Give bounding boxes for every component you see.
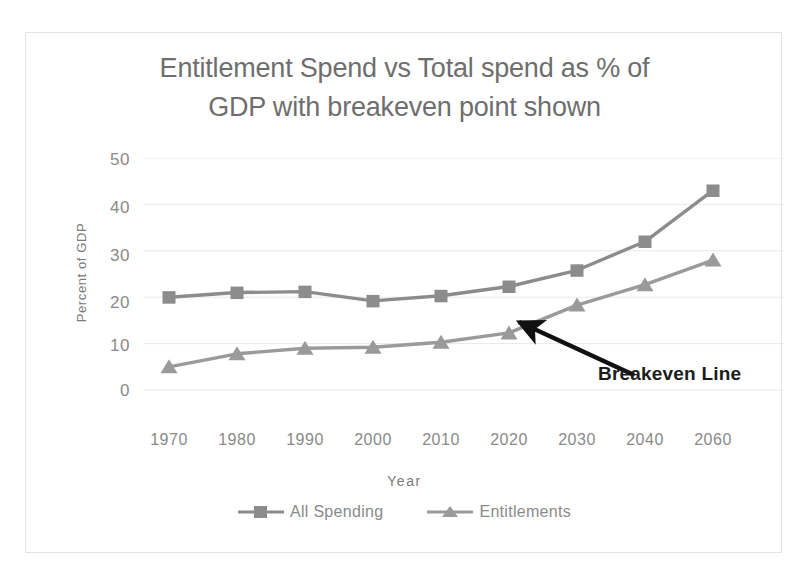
x-axis-title: Year xyxy=(26,473,783,489)
chart-title: Entitlement Spend vs Total spend as % of… xyxy=(26,49,783,127)
x-tick-1980: 1980 xyxy=(207,431,267,449)
data-point[interactable] xyxy=(299,286,312,299)
legend-square-marker-icon xyxy=(238,504,284,520)
legend-label-all-spending: All Spending xyxy=(290,503,383,521)
x-tick-2020: 2020 xyxy=(479,431,539,449)
series-line xyxy=(169,260,713,367)
legend-item-entitlements[interactable]: Entitlements xyxy=(427,503,571,521)
data-point[interactable] xyxy=(707,184,720,197)
data-point[interactable] xyxy=(231,287,244,300)
x-tick-2040: 2040 xyxy=(615,431,675,449)
legend-triangle-marker-icon xyxy=(427,504,473,520)
x-tick-2060: 2060 xyxy=(683,431,743,449)
y-tick-20: 20 xyxy=(86,293,130,313)
data-point[interactable] xyxy=(163,291,176,304)
breakeven-line-annotation: Breakeven Line xyxy=(598,363,741,385)
x-tick-2000: 2000 xyxy=(343,431,403,449)
data-point[interactable] xyxy=(705,253,722,267)
y-tick-0: 0 xyxy=(86,381,130,401)
chart-frame: Entitlement Spend vs Total spend as % of… xyxy=(25,32,782,553)
data-point[interactable] xyxy=(367,295,380,308)
y-tick-30: 30 xyxy=(86,246,130,266)
series-entitlements xyxy=(161,253,722,374)
chart-legend: All Spending Entitlements xyxy=(26,503,783,521)
y-tick-40: 40 xyxy=(86,198,130,218)
data-point[interactable] xyxy=(435,290,448,303)
y-tick-50: 50 xyxy=(86,150,130,170)
x-tick-2030: 2030 xyxy=(547,431,607,449)
x-tick-1970: 1970 xyxy=(139,431,199,449)
series-line xyxy=(169,190,713,300)
x-tick-2010: 2010 xyxy=(411,431,471,449)
data-series-layer xyxy=(161,184,722,373)
legend-label-entitlements: Entitlements xyxy=(479,503,571,521)
legend-item-all-spending[interactable]: All Spending xyxy=(238,503,383,521)
y-tick-10: 10 xyxy=(86,336,130,356)
x-tick-1990: 1990 xyxy=(275,431,335,449)
chart-title-line-2: GDP with breakeven point shown xyxy=(26,88,783,127)
data-point[interactable] xyxy=(639,236,652,249)
data-point[interactable] xyxy=(571,264,584,277)
data-point[interactable] xyxy=(503,281,516,294)
chart-title-line-1: Entitlement Spend vs Total spend as % of xyxy=(26,49,783,88)
